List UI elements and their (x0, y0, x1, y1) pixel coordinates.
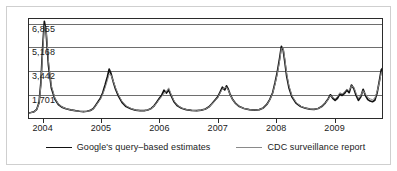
series-line-cdc (28, 26, 383, 114)
legend-item-cdc: CDC surveillance report (236, 142, 365, 152)
x-tick-label: 2005 (81, 124, 121, 133)
x-tick-marks (44, 119, 336, 123)
x-tick-label: 2007 (198, 124, 238, 133)
y-tick-label: 1,701 (32, 96, 55, 105)
series-lines (28, 21, 383, 113)
x-tick-label: 2008 (256, 124, 296, 133)
flu-trends-figure: 1,7013,4425,1686,855 2004200520062007200… (0, 0, 397, 171)
legend-label-google: Google's query–based estimates (77, 142, 211, 152)
x-tick-label: 2009 (315, 124, 355, 133)
gridlines (28, 25, 383, 96)
y-tick-label: 6,855 (32, 25, 55, 34)
plot-frame (29, 19, 383, 119)
y-tick-label: 3,442 (32, 72, 55, 81)
line-swatch-icon (236, 147, 262, 148)
chart-canvas (28, 17, 383, 125)
x-tick-label: 2004 (23, 124, 63, 133)
plot-area: 1,7013,4425,1686,855 (28, 17, 383, 118)
chart-legend: Google's query–based estimates CDC surve… (28, 139, 383, 155)
x-tick-label: 2006 (139, 124, 179, 133)
line-swatch-icon (46, 147, 72, 148)
legend-item-google: Google's query–based estimates (46, 142, 211, 152)
y-tick-label: 5,168 (32, 48, 55, 57)
series-line-google (28, 21, 383, 113)
legend-label-cdc: CDC surveillance report (267, 142, 365, 152)
